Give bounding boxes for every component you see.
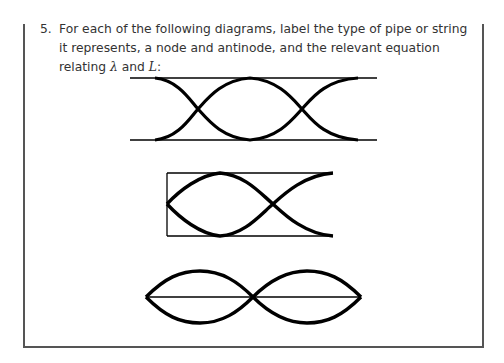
diagrams-canvas xyxy=(0,0,504,363)
diagram-closed-open-pipe xyxy=(167,173,333,236)
diagram-string-fixed-ends xyxy=(146,271,361,323)
diagram-open-open-pipe xyxy=(130,78,377,140)
